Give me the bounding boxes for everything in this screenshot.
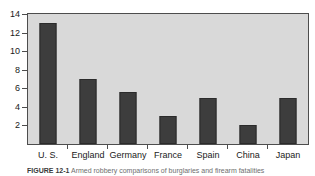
x-tick-label: Germany — [109, 150, 146, 161]
bar — [280, 98, 297, 144]
y-tick-label: 14 — [10, 10, 20, 19]
y-tick-label: 8 — [15, 66, 20, 75]
x-tick-label: Spain — [196, 150, 219, 161]
x-axis-ticks — [28, 145, 308, 149]
x-tick-label: Japan — [276, 150, 301, 161]
y-tick-label: 12 — [10, 29, 20, 38]
bar — [80, 79, 97, 144]
y-axis: 2468101214 — [0, 0, 27, 176]
figure-container: 2468101214 U. S.EnglandGermanyFranceSpai… — [0, 0, 315, 176]
y-tick-label: 10 — [10, 47, 20, 56]
bar — [200, 98, 217, 144]
y-tick-label: 2 — [15, 121, 20, 130]
bar — [40, 23, 57, 144]
x-tick-mark — [187, 145, 188, 149]
y-tick-label: 4 — [15, 103, 20, 112]
bar-slot — [28, 14, 68, 144]
x-tick-mark — [107, 145, 108, 149]
x-tick-mark — [267, 145, 268, 149]
figure-caption-label: FIGURE 12-1 — [27, 167, 69, 174]
figure-caption-text: Armed robbery comparisons of burglaries … — [71, 167, 264, 174]
x-tick-label: U. S. — [38, 150, 58, 161]
x-tick-label: France — [154, 150, 182, 161]
bar — [240, 125, 257, 144]
bar-slot — [268, 14, 308, 144]
x-tick-mark — [67, 145, 68, 149]
x-tick-label: China — [236, 150, 260, 161]
bar-slot — [228, 14, 268, 144]
bar-slot — [68, 14, 108, 144]
x-tick-label: England — [71, 150, 104, 161]
figure-caption: FIGURE 12-1 Armed robbery comparisons of… — [27, 166, 312, 176]
bar-slot — [148, 14, 188, 144]
x-axis-labels: U. S.EnglandGermanyFranceSpainChinaJapan — [28, 150, 308, 162]
bar — [120, 92, 137, 144]
x-tick-mark — [147, 145, 148, 149]
x-tick-mark — [227, 145, 228, 149]
bar-slot — [188, 14, 228, 144]
bar — [160, 116, 177, 144]
bar-slot — [108, 14, 148, 144]
y-tick-label: 6 — [15, 84, 20, 93]
bar-series — [28, 14, 308, 144]
